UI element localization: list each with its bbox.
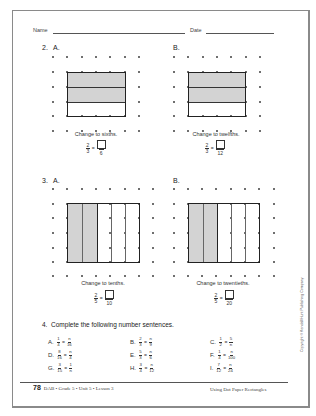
grid-dot	[81, 188, 82, 189]
grid-dot	[173, 71, 174, 72]
left-fraction: 23	[139, 337, 142, 347]
grid-dot	[66, 188, 67, 189]
item-label: D.	[48, 352, 54, 358]
grid-dot	[173, 261, 174, 262]
grid-dot	[138, 71, 139, 72]
grid-dot	[52, 232, 53, 233]
grid-dot	[52, 56, 53, 57]
right-fraction[interactable]: n100	[228, 350, 235, 360]
grid-dot	[258, 275, 259, 276]
divider-line	[203, 204, 204, 262]
footer-left: 78DAB • Grade 5 • Unit 5 • Lesson 3	[33, 384, 114, 391]
worksheet-page	[12, 10, 310, 408]
grid-dot	[152, 203, 153, 204]
problem-2-number: 2.	[42, 44, 48, 51]
grid-dot	[152, 247, 153, 248]
grid-dot	[152, 188, 153, 189]
fraction-equation-3b: 2 5 = 20	[214, 290, 234, 306]
name-label: Name	[33, 27, 48, 33]
grid-dot	[138, 275, 139, 276]
rectangle-2b	[188, 72, 246, 117]
grid-dot	[66, 275, 67, 276]
answer-box-2b[interactable]	[216, 140, 225, 149]
grid-dot	[52, 217, 53, 218]
grid-dot	[95, 275, 96, 276]
grid-dot	[259, 115, 260, 116]
left-fraction: 315	[57, 363, 62, 373]
right-fraction[interactable]: 5n	[229, 337, 232, 347]
grid-dot	[230, 56, 231, 57]
divider-line	[217, 204, 218, 262]
grid-dot	[138, 101, 139, 102]
course-info: DAB • Grade 5 • Unit 5 • Lesson 3	[44, 386, 114, 391]
grid-dot	[216, 56, 217, 57]
left-fraction: 816	[57, 350, 62, 360]
right-fraction[interactable]: n4	[69, 350, 72, 360]
right-fraction[interactable]: n12	[149, 363, 154, 373]
right-fraction[interactable]: n16	[67, 337, 72, 347]
left-fraction: 14	[57, 337, 60, 347]
left-fraction: 712	[216, 363, 221, 373]
instruction-2a: Change to sixths.	[36, 131, 156, 137]
grid-dot	[124, 188, 125, 189]
rectangle-3a	[67, 203, 140, 263]
answer-fraction: 12	[216, 140, 225, 156]
answer-box-3b[interactable]	[225, 290, 234, 299]
fraction-equation-2b: 2 3 = 12	[205, 140, 225, 156]
rectangle-2a	[67, 72, 126, 117]
page-number: 78	[33, 384, 41, 391]
problem-4-number: 4.	[42, 321, 47, 328]
lesson-title: Using Dot Paper Rectangles	[210, 387, 267, 392]
grid-dot	[152, 261, 153, 262]
divider-line	[68, 87, 125, 88]
grid-dot	[152, 275, 153, 276]
copyright-notice: Copyright © Kendall/Hunt Publishing Comp…	[300, 277, 304, 352]
grid-dot	[173, 203, 174, 204]
item-label: I.	[210, 365, 213, 371]
grid-dot	[52, 261, 53, 262]
grid-dot	[273, 275, 274, 276]
given-fraction: 2 5	[214, 293, 218, 304]
number-sentence-h: H.34=n12	[130, 363, 154, 373]
right-fraction[interactable]: n9	[149, 337, 152, 347]
grid-dot	[245, 56, 246, 57]
grid-dot	[152, 232, 153, 233]
date-label: Date	[190, 27, 202, 33]
grid-dot	[124, 56, 125, 57]
given-fraction: 2 3	[205, 143, 209, 154]
grid-dot	[259, 71, 260, 72]
grid-dot	[138, 56, 139, 57]
grid-dot	[273, 217, 274, 218]
grid-dot	[52, 115, 53, 116]
grid-dot	[52, 275, 53, 276]
left-fraction: 14	[218, 350, 221, 360]
answer-box-2a[interactable]	[97, 140, 106, 149]
right-fraction[interactable]: n6	[149, 350, 152, 360]
grid-dot	[258, 188, 259, 189]
answer-fraction: 10	[105, 290, 114, 306]
grid-dot	[273, 247, 274, 248]
name-field-line[interactable]	[53, 33, 185, 34]
item-label: F.	[210, 352, 215, 358]
right-fraction[interactable]: n24	[228, 363, 233, 373]
grid-dot	[273, 203, 274, 204]
right-fraction[interactable]: 1n	[69, 363, 72, 373]
divider-line	[97, 204, 98, 262]
grid-dot	[52, 71, 53, 72]
number-sentence-e: E.53=n6	[130, 350, 152, 360]
grid-dot	[273, 261, 274, 262]
left-fraction: 12	[219, 337, 222, 347]
number-sentence-a: A.14=n16	[48, 337, 72, 347]
grid-dot	[173, 115, 174, 116]
item-label: H.	[130, 365, 136, 371]
grid-dot	[109, 275, 110, 276]
divider-line	[125, 204, 126, 262]
left-fraction: 34	[139, 363, 142, 373]
given-fraction: 2 3	[86, 143, 90, 154]
divider-line	[82, 204, 83, 262]
grid-dot	[95, 56, 96, 57]
answer-box-3a[interactable]	[105, 290, 114, 299]
date-field-line[interactable]	[206, 33, 274, 34]
grid-dot	[152, 217, 153, 218]
grid-dot	[244, 188, 245, 189]
